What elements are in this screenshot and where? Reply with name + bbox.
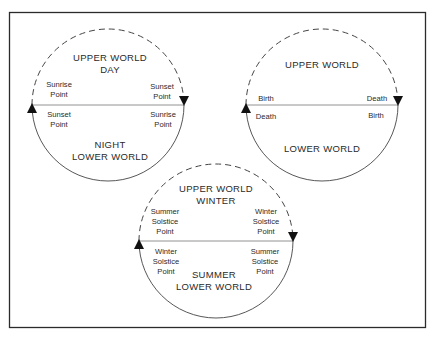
lower-right-label: Sunrise	[150, 110, 176, 119]
circle-day-night: UPPER WORLD DAY NIGHT LOWER WORLD Sunris…	[27, 29, 189, 181]
lower-right-label: Summer	[251, 247, 280, 256]
arrow-down-icon	[179, 96, 189, 106]
lower-left-label: Sunset	[47, 110, 72, 119]
upper-title-2: WINTER	[196, 195, 235, 206]
upper-right-label: Death	[367, 94, 387, 103]
upper-title-1: UPPER WORLD	[285, 59, 359, 70]
lower-title-2: LOWER WORLD	[72, 151, 148, 162]
lower-left-label-2: Solstice	[153, 257, 180, 266]
arrow-down-icon	[393, 96, 403, 106]
arrow-up-icon	[27, 103, 37, 113]
upper-title-2: DAY	[100, 64, 120, 75]
upper-left-label-2: Solstice	[152, 217, 179, 226]
lower-right-label-2: Solstice	[252, 257, 279, 266]
upper-left-label-2: Point	[50, 90, 68, 99]
upper-title-1: UPPER WORLD	[179, 183, 253, 194]
upper-right-label-2: Solstice	[253, 217, 280, 226]
lower-title-1: NIGHT	[94, 139, 125, 150]
upper-title-1: UPPER WORLD	[73, 52, 147, 63]
lower-title-2: LOWER WORLD	[176, 281, 252, 292]
upper-right-label: Winter	[255, 207, 277, 216]
circle-seasons: UPPER WORLD WINTER SUMMER LOWER WORLD Su…	[134, 164, 298, 318]
lower-left-label: Death	[256, 112, 276, 121]
upper-right-label-2: Point	[153, 92, 171, 101]
lower-title-1: LOWER WORLD	[284, 143, 360, 154]
upper-right-label: Sunset	[150, 82, 175, 91]
lower-left-label-2: Point	[50, 120, 68, 129]
upper-right-label-3: Point	[257, 227, 275, 236]
circle-life-death: UPPER WORLD LOWER WORLD Birth Death Deat…	[241, 29, 403, 181]
lower-right-label-3: Point	[256, 267, 274, 276]
lower-right-label-2: Point	[154, 120, 172, 129]
upper-left-label: Summer	[151, 207, 180, 216]
upper-left-label-3: Point	[156, 227, 174, 236]
lower-right-label: Birth	[368, 111, 384, 120]
upper-left-label: Sunrise	[46, 80, 72, 89]
arrow-up-icon	[134, 239, 144, 249]
lower-left-label-3: Point	[157, 267, 175, 276]
arrow-up-icon	[241, 103, 251, 113]
upper-left-label: Birth	[258, 94, 274, 103]
lower-title-1: SUMMER	[192, 269, 236, 280]
lower-left-label: Winter	[155, 247, 177, 256]
arrow-down-icon	[288, 232, 298, 242]
cosmology-diagram: UPPER WORLD DAY NIGHT LOWER WORLD Sunris…	[0, 0, 435, 341]
